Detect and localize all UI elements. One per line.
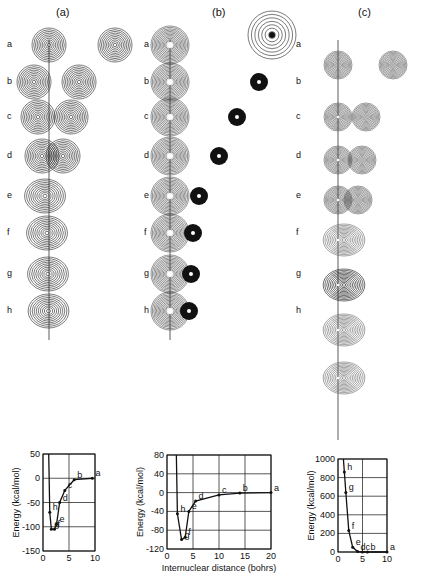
svg-text:h: h	[53, 502, 58, 512]
svg-text:Energy (kcal/mol): Energy (kcal/mol)	[306, 470, 316, 540]
svg-text:0: 0	[40, 553, 45, 563]
svg-text:1000: 1000	[315, 454, 335, 464]
svg-text:Internuclear distance (bohrs): Internuclear distance (bohrs)	[162, 563, 277, 573]
energy-plot-a: 0510500-50-100-150abcdefghEnergy (kcal/m…	[11, 449, 100, 563]
svg-text:0: 0	[164, 551, 169, 561]
svg-text:10: 10	[90, 553, 100, 563]
svg-text:-120: -120	[146, 544, 164, 554]
svg-text:a: a	[95, 468, 100, 478]
panel-c-contours	[323, 40, 407, 440]
svg-text:5: 5	[66, 553, 71, 563]
svg-text:0: 0	[330, 547, 335, 557]
svg-text:c: c	[366, 542, 371, 552]
energy-plot-b: 0510152080400-40-80-120abcdefghEnergy (k…	[135, 450, 279, 573]
svg-text:h: h	[180, 504, 185, 514]
svg-text:b: b	[77, 470, 82, 480]
svg-text:40: 40	[154, 469, 164, 479]
svg-text:d: d	[63, 493, 68, 503]
svg-text:c: c	[222, 485, 227, 495]
svg-text:f: f	[352, 521, 355, 531]
energy-plot-c: 051010008006004002000abcdefghEnergy (kca…	[306, 454, 395, 564]
svg-text:80: 80	[154, 450, 164, 460]
svg-text:5: 5	[360, 554, 365, 564]
svg-text:10: 10	[382, 554, 392, 564]
svg-text:-100: -100	[22, 522, 40, 532]
svg-text:-150: -150	[22, 546, 40, 556]
svg-text:g: g	[349, 482, 354, 492]
svg-text:600: 600	[320, 491, 335, 501]
svg-text:e: e	[60, 514, 65, 524]
svg-text:10: 10	[214, 551, 224, 561]
svg-text:0: 0	[35, 473, 40, 483]
svg-text:0: 0	[159, 488, 164, 498]
panel-b-contours	[151, 11, 296, 340]
svg-text:g: g	[54, 519, 59, 529]
svg-text:d: d	[361, 542, 366, 552]
svg-text:g: g	[185, 530, 190, 540]
svg-text:20: 20	[266, 551, 276, 561]
svg-text:b: b	[243, 483, 248, 493]
svg-text:d: d	[199, 491, 204, 501]
svg-text:-50: -50	[27, 498, 40, 508]
svg-text:15: 15	[240, 551, 250, 561]
svg-text:50: 50	[30, 449, 40, 459]
svg-text:a: a	[390, 542, 395, 552]
svg-text:-40: -40	[151, 506, 164, 516]
figure-canvas: 0510500-50-100-150abcdefghEnergy (kcal/m…	[0, 0, 421, 582]
svg-text:e: e	[192, 501, 197, 511]
svg-text:-80: -80	[151, 525, 164, 535]
svg-text:b: b	[370, 542, 375, 552]
svg-text:a: a	[274, 483, 279, 493]
svg-text:e: e	[356, 537, 361, 547]
svg-text:200: 200	[320, 528, 335, 538]
svg-text:c: c	[68, 480, 73, 490]
svg-text:800: 800	[320, 473, 335, 483]
svg-text:400: 400	[320, 510, 335, 520]
svg-text:0: 0	[335, 554, 340, 564]
panel-a-contours	[17, 28, 132, 340]
svg-text:Energy (kcal/mol): Energy (kcal/mol)	[11, 467, 21, 537]
svg-text:h: h	[347, 462, 352, 472]
svg-text:Energy (kcal/mol): Energy (kcal/mol)	[135, 467, 145, 537]
svg-text:5: 5	[190, 551, 195, 561]
